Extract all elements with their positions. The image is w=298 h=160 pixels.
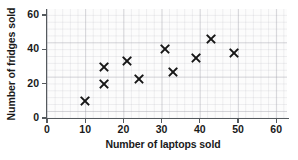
y-axis-tick	[42, 83, 47, 84]
x-axis-tick	[161, 118, 162, 123]
x-axis-line	[46, 118, 289, 119]
y-axis-tick-label: 20	[9, 78, 39, 89]
x-axis-tick	[123, 118, 124, 123]
x-axis-title: Number of laptops sold	[47, 138, 279, 150]
y-axis-line	[46, 9, 47, 119]
x-axis-tick-label: 0	[32, 124, 62, 135]
x-axis-tick-label: 40	[185, 124, 215, 135]
x-axis-tick	[85, 118, 86, 123]
x-axis-tick-label: 50	[223, 124, 253, 135]
y-axis-tick	[42, 14, 47, 15]
y-axis-title: Number of fridges sold	[2, 4, 20, 124]
scatter-chart: Number of fridges sold Number of laptops…	[0, 0, 298, 160]
y-axis-tick-label: 0	[9, 112, 39, 123]
x-axis-tick	[199, 118, 200, 123]
x-axis-tick-label: 30	[147, 124, 177, 135]
x-axis-tick-label: 10	[70, 124, 100, 135]
x-axis-tick-label: 60	[261, 124, 291, 135]
x-axis-tick-label: 20	[108, 124, 138, 135]
x-axis-tick	[237, 118, 238, 123]
y-axis-tick-label: 60	[9, 9, 39, 20]
x-axis-tick	[276, 118, 277, 123]
plot-area	[47, 9, 287, 118]
y-axis-tick-label: 40	[9, 43, 39, 54]
y-axis-tick	[42, 49, 47, 50]
x-axis-tick	[46, 118, 47, 123]
